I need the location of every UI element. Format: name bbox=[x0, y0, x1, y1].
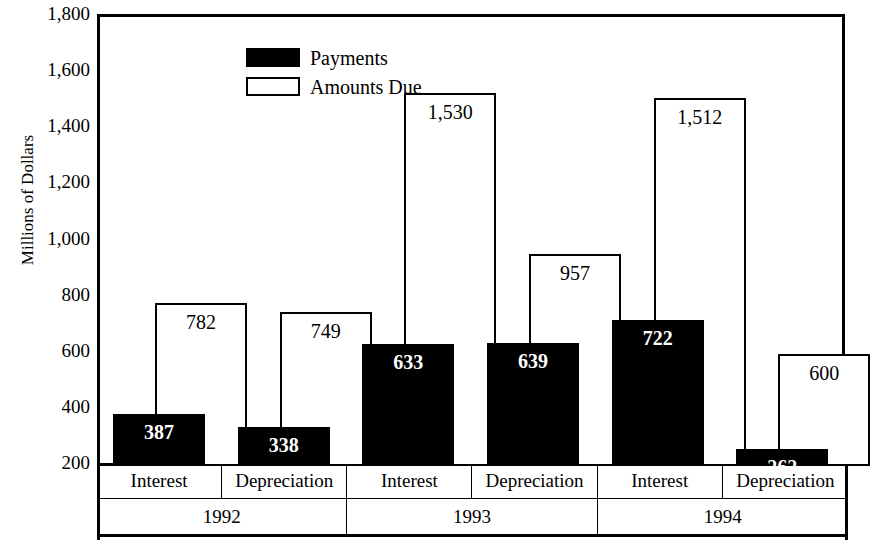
category-cell: Interest bbox=[97, 463, 222, 498]
bar-value-label: 722 bbox=[613, 328, 703, 348]
bar-value-label: 600 bbox=[780, 363, 868, 383]
year-row: 199219931994 bbox=[97, 499, 848, 537]
y-tick-label: 1,800 bbox=[4, 4, 90, 23]
bar-value-label: 262 bbox=[737, 457, 827, 477]
year-cell: 1994 bbox=[598, 499, 848, 534]
legend-label-payments: Payments bbox=[310, 48, 388, 68]
y-tick-label: 1,200 bbox=[4, 172, 90, 191]
bar-value-label: 749 bbox=[282, 321, 370, 341]
bar-value-label: 639 bbox=[488, 351, 578, 371]
category-cell: Interest bbox=[598, 463, 723, 498]
legend: Payments Amounts Due bbox=[246, 45, 422, 103]
bar-value-label: 957 bbox=[531, 263, 619, 283]
y-tick-label: 1,400 bbox=[4, 116, 90, 135]
legend-swatch-payments-icon bbox=[246, 48, 300, 67]
bar-value-label: 633 bbox=[363, 352, 453, 372]
category-cell: Interest bbox=[347, 463, 472, 498]
y-tick-label: 1,000 bbox=[4, 229, 90, 248]
legend-item-amounts-due: Amounts Due bbox=[246, 74, 422, 99]
bar-value-label: 387 bbox=[114, 422, 204, 442]
bar-value-label: 1,530 bbox=[406, 102, 494, 122]
bar-payments: 722 bbox=[612, 320, 704, 466]
category-cell: Depreciation bbox=[222, 463, 347, 498]
category-cell: Depreciation bbox=[472, 463, 597, 498]
bar-payments: 387 bbox=[113, 414, 205, 466]
category-table: InterestDepreciationInterestDepreciation… bbox=[97, 463, 848, 540]
plot-area: 7823877493381,5306339576391,512722600262… bbox=[97, 14, 845, 463]
legend-item-payments: Payments bbox=[246, 45, 422, 70]
bar-value-label: 782 bbox=[157, 312, 245, 332]
bar-payments: 639 bbox=[487, 343, 579, 466]
y-tick-label: 1,600 bbox=[4, 60, 90, 79]
bar-value-label: 338 bbox=[239, 435, 329, 455]
y-tick-label: 400 bbox=[4, 397, 90, 416]
year-cell: 1992 bbox=[97, 499, 347, 534]
bar-payments: 633 bbox=[362, 344, 454, 466]
category-row: InterestDepreciationInterestDepreciation… bbox=[97, 463, 848, 499]
bar-payments: 338 bbox=[238, 427, 330, 466]
y-tick-label: 600 bbox=[4, 341, 90, 360]
bar-value-label: 1,512 bbox=[656, 107, 744, 127]
year-cell: 1993 bbox=[347, 499, 597, 534]
legend-swatch-amounts-due-icon bbox=[246, 77, 300, 96]
legend-label-amounts-due: Amounts Due bbox=[310, 77, 422, 97]
y-tick-label: 200 bbox=[4, 453, 90, 472]
y-tick-label: 800 bbox=[4, 285, 90, 304]
bar-payments: 262 bbox=[736, 449, 828, 466]
